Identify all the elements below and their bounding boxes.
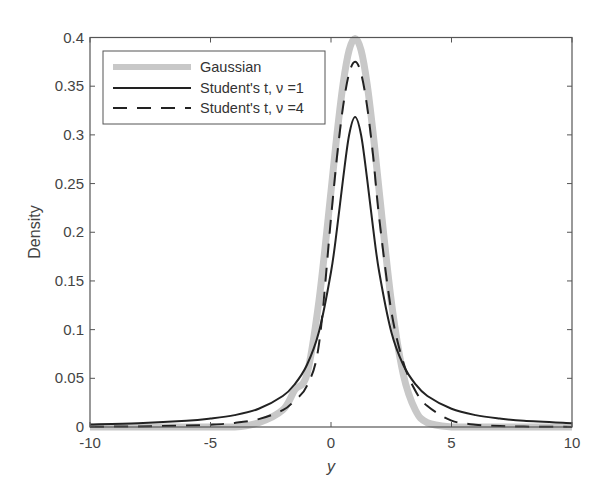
legend-label-t-nu4: Student's t, ν =4 [200, 100, 304, 116]
y-tick-label: 0.05 [55, 369, 84, 386]
y-axis-label: Density [26, 205, 43, 258]
y-tick-label: 0.3 [63, 126, 84, 143]
x-tick-label: -10 [79, 434, 101, 451]
legend-label-gaussian: Gaussian [200, 59, 261, 75]
x-tick-label: 0 [327, 434, 335, 451]
x-tick-label: 10 [564, 434, 581, 451]
legend-label-t-nu1: Student's t, ν =1 [200, 80, 304, 96]
x-axis-label: y [326, 458, 336, 475]
y-tick-label: 0.35 [55, 77, 84, 94]
legend: Gaussian Student's t, ν =1 Student's t, … [103, 51, 325, 124]
density-chart: -10-50510 00.050.10.150.20.250.30.350.4 … [0, 0, 605, 497]
y-tick-label: 0.2 [63, 223, 84, 240]
x-tick-label: -5 [204, 434, 217, 451]
y-tick-label: 0.15 [55, 272, 84, 289]
y-tick-label: 0.25 [55, 175, 84, 192]
y-tick-label: 0 [76, 418, 84, 435]
y-tick-label: 0.4 [63, 29, 84, 46]
y-tick-label: 0.1 [63, 321, 84, 338]
x-tick-label: 5 [447, 434, 455, 451]
